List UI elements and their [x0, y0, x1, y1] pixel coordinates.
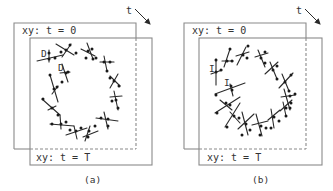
glyph	[56, 44, 78, 58]
glyph	[215, 83, 246, 97]
glyph-point	[242, 54, 245, 57]
glyph-point	[48, 58, 51, 61]
glyph-marks: II	[209, 63, 230, 88]
glyph	[215, 97, 240, 115]
glyph-segment	[281, 95, 295, 97]
glyph-point	[85, 57, 88, 60]
frame-front-label: xy: t = T	[207, 152, 261, 163]
glyph-point	[260, 125, 263, 128]
glyph-point	[289, 107, 292, 110]
glyph-point	[53, 88, 56, 91]
glyph-mark-label: D	[41, 48, 47, 59]
time-arrow: t	[126, 5, 150, 24]
glyph-point	[290, 74, 293, 77]
glyph-point	[94, 125, 97, 128]
glyph-point	[87, 136, 90, 139]
glyph	[238, 112, 254, 137]
glyph-point	[67, 71, 70, 74]
glyph-point	[69, 129, 72, 132]
glyph-point	[88, 130, 91, 133]
glyph-point	[111, 100, 114, 103]
glyph-point	[106, 70, 109, 73]
glyph	[265, 62, 279, 81]
glyph-point	[249, 129, 252, 132]
arrow-icon	[305, 9, 320, 24]
frame-front-label: xy: t = T	[36, 152, 90, 163]
glyph-point	[60, 51, 63, 54]
glyph	[225, 103, 241, 129]
frame-front-tT	[30, 38, 152, 165]
glyph-point	[69, 44, 72, 47]
glyph-point	[260, 57, 263, 60]
glyph-segment	[104, 56, 107, 71]
glyph	[83, 125, 98, 142]
frame-border	[30, 38, 152, 165]
glyph-point	[270, 127, 273, 130]
glyph-point	[215, 71, 218, 74]
panel-b: t xy: t = 0 xy: t = T II (b)	[184, 5, 322, 185]
glyph	[95, 56, 115, 73]
glyph-point	[103, 61, 106, 64]
glyph-point	[264, 62, 267, 65]
glyph-point	[285, 107, 288, 110]
glyph-point	[65, 121, 68, 124]
glyph-point	[231, 89, 234, 92]
glyph-point	[92, 58, 95, 61]
glyph-point	[231, 60, 234, 63]
glyph-ring	[37, 43, 122, 141]
time-axis-label: t	[296, 5, 302, 16]
glyph-point	[215, 94, 218, 97]
glyph-point	[276, 78, 279, 81]
glyph-mark-label: I	[224, 77, 230, 88]
glyph	[279, 73, 293, 93]
glyph-point	[51, 123, 54, 126]
figure-canvas: t xy: t = 0 xy: t = T DD (a) t xy: t = 0…	[0, 0, 333, 191]
glyph-point	[100, 117, 103, 120]
glyph-point	[225, 102, 228, 105]
glyph-point	[117, 107, 120, 110]
glyph	[252, 114, 268, 137]
glyph-point	[42, 98, 45, 101]
glyph-mark-label: I	[209, 63, 215, 74]
glyph-point	[229, 48, 232, 51]
glyph-point	[51, 107, 54, 110]
glyph-point	[259, 134, 262, 137]
glyph-segment	[237, 47, 246, 65]
glyph-point	[284, 81, 287, 84]
glyph-point	[276, 65, 279, 68]
frame-back-t0	[184, 23, 306, 149]
glyph-point	[75, 52, 78, 55]
glyph	[255, 50, 268, 67]
glyph-point	[229, 104, 232, 107]
glyph-point	[246, 57, 249, 60]
glyph-point	[109, 77, 112, 80]
time-axis-label: t	[126, 5, 132, 16]
glyph-segment	[271, 109, 274, 128]
glyph-segment	[252, 121, 268, 125]
glyph-point	[285, 115, 288, 118]
panel-caption: (a)	[84, 174, 101, 185]
arrow-icon	[135, 9, 150, 24]
frame-edge	[184, 23, 306, 149]
glyph-point	[230, 85, 233, 88]
glyph-point	[75, 130, 78, 133]
glyph-point	[107, 118, 110, 121]
glyph	[81, 43, 95, 61]
glyph-point	[247, 45, 250, 48]
glyph-segment	[110, 96, 122, 97]
glyph-point	[91, 48, 94, 51]
frame-back-label: xy: t = 0	[22, 25, 76, 36]
glyph-point	[241, 134, 244, 137]
glyph	[110, 91, 122, 110]
glyph-point	[95, 57, 98, 60]
glyph-point	[294, 93, 297, 96]
glyph-point	[216, 112, 219, 115]
glyph-point	[54, 57, 57, 60]
glyph-point	[265, 127, 268, 130]
glyph-point	[48, 52, 51, 55]
glyph	[49, 74, 59, 103]
glyph-point	[49, 74, 52, 77]
glyph-point	[57, 114, 60, 117]
glyph-point	[245, 123, 248, 126]
glyph	[268, 109, 281, 130]
